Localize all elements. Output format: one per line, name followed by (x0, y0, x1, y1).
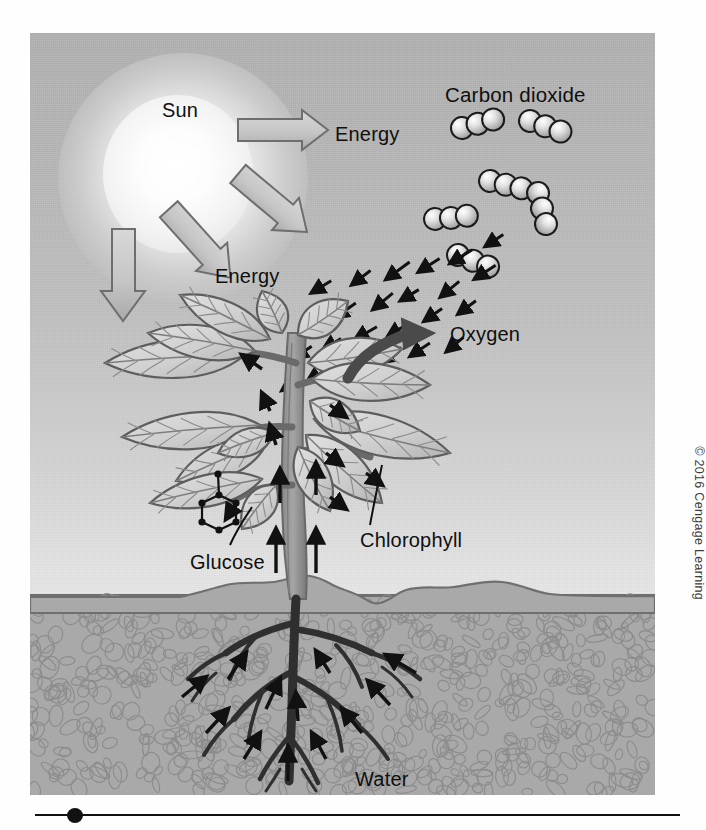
rule-line (35, 814, 680, 816)
label-energy-top: Energy (335, 123, 400, 146)
label-oxygen: Oxygen (450, 323, 520, 346)
label-water: Water (355, 768, 409, 791)
bottom-rule (35, 806, 680, 826)
rule-bullet-dot (67, 808, 83, 823)
label-chlorophyll: Chlorophyll (360, 529, 462, 552)
photosynthesis-figure: Sun (30, 33, 655, 795)
label-carbon-dioxide: Carbon dioxide (445, 83, 586, 107)
label-glucose: Glucose (190, 551, 265, 574)
copyright-notice: © 2016 Cengage Learning (692, 446, 706, 600)
label-energy-lower: Energy (215, 265, 280, 288)
leader-lines (30, 33, 655, 795)
